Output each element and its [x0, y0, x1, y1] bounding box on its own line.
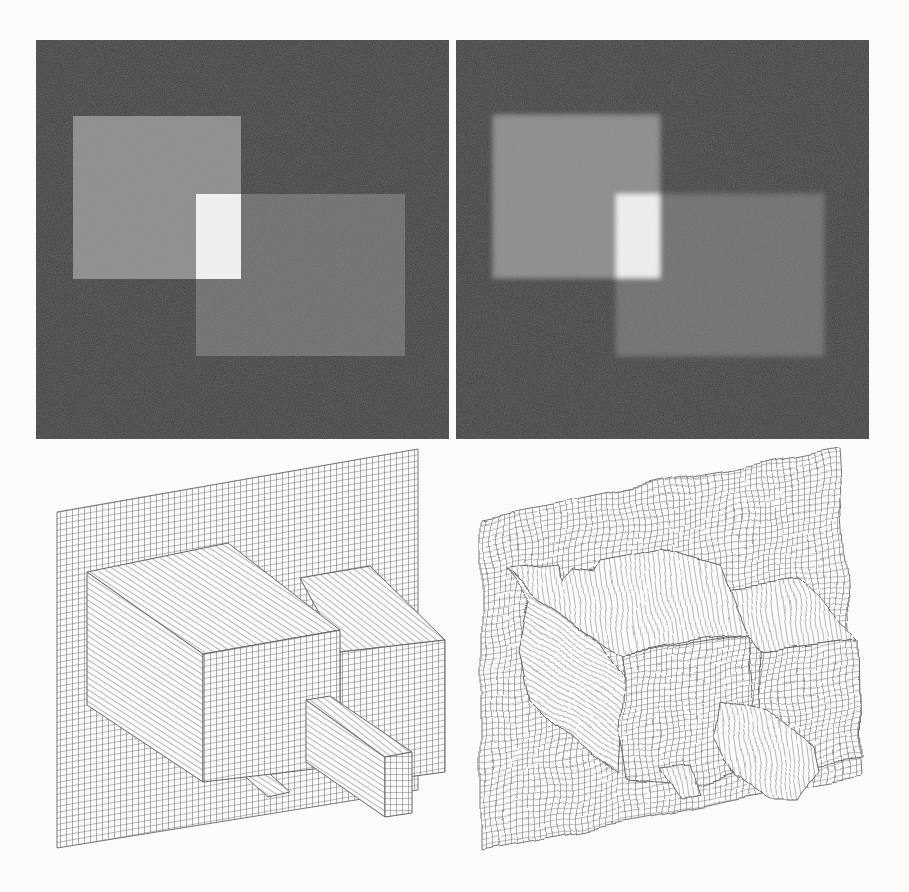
panel-top-left-intensity-image — [36, 40, 449, 439]
panel-bottom-left-wireframe — [57, 449, 445, 848]
bright-overlap-region-blurred — [616, 194, 660, 278]
bright-overlap-region — [196, 194, 241, 279]
block-c-front-face — [385, 752, 412, 817]
panel-bottom-right-wireframe — [482, 448, 860, 850]
figure — [0, 0, 909, 892]
panel-top-right-intensity-image — [440, 25, 885, 455]
